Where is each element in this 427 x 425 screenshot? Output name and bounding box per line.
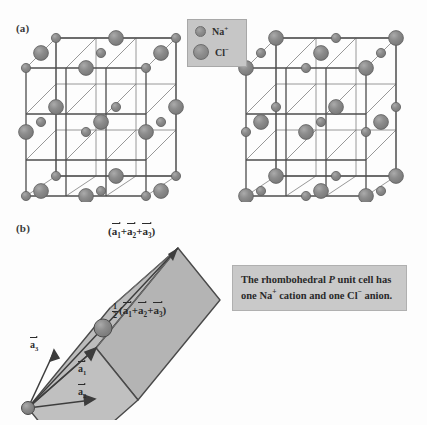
- corner-ion-sphere: [22, 402, 35, 415]
- label-vector-a3: a3: [30, 338, 38, 352]
- ion-legend: Na+ Cl−: [187, 19, 247, 67]
- rhombohedral-unit-cell: [8, 230, 233, 420]
- body-center-ion-sphere: [94, 319, 112, 337]
- back-lattice-lines: [246, 38, 396, 196]
- label-vector-a1: a1: [78, 362, 86, 376]
- front-lattice-lines: [246, 38, 396, 196]
- nacl-structure-figure: (a): [0, 0, 427, 425]
- nacl-cube-right: [238, 24, 418, 202]
- label-body-center-vector: 12(a1+a2+a3): [112, 303, 166, 320]
- rhombohedron-faces: [28, 248, 220, 420]
- label-vector-a2: a2: [78, 385, 86, 399]
- legend-label-chloride: Cl−: [215, 46, 229, 58]
- small-sphere-icon: [195, 26, 206, 37]
- nacl-cube-left: [18, 24, 198, 202]
- legend-item-sodium: Na+: [193, 25, 228, 37]
- large-sphere-icon: [193, 44, 209, 60]
- caption-text: The rhombohedral P unit cell has one Na+…: [241, 272, 398, 303]
- label-corner-vector-sum: (a1+a2+a3): [108, 224, 155, 240]
- one-half-fraction: 12: [112, 303, 118, 320]
- caption-box: The rhombohedral P unit cell has one Na+…: [232, 265, 407, 311]
- legend-label-sodium: Na+: [212, 25, 228, 37]
- legend-item-chloride: Cl−: [193, 44, 229, 60]
